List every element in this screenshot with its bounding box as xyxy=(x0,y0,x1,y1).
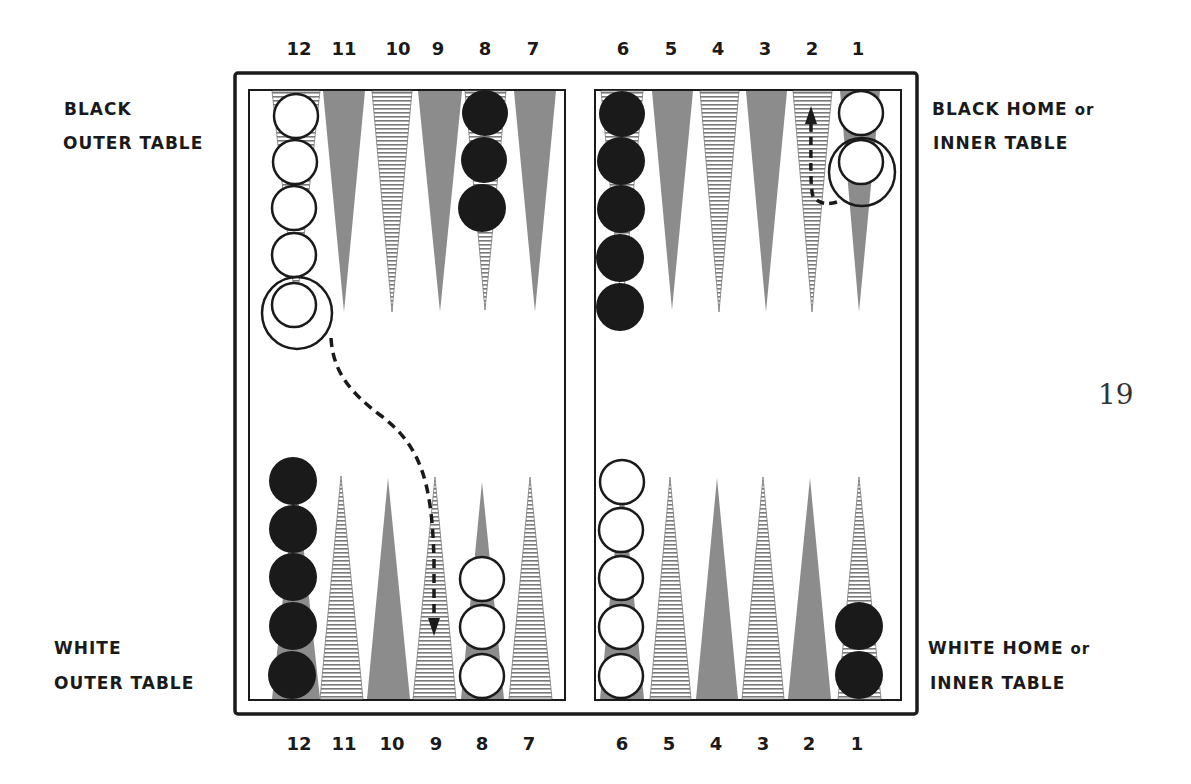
point-number-bottom-7: 7 xyxy=(523,735,536,753)
point-number-top-6: 6 xyxy=(617,40,630,58)
checkers-top-6-black xyxy=(596,91,645,331)
checkers-bottom-8-white xyxy=(460,557,504,698)
label-white-home-or: or xyxy=(1071,640,1091,658)
label-white-home-line1: WHITE HOME xyxy=(928,638,1064,658)
label-white-home-line2: INNER TABLE xyxy=(930,675,1065,692)
point-number-bottom-4: 4 xyxy=(710,735,723,753)
label-white-outer-line1: WHITE xyxy=(54,640,122,657)
point-number-top-7: 7 xyxy=(527,40,540,58)
point-number-top-9: 9 xyxy=(432,40,445,58)
point-number-bottom-2: 2 xyxy=(803,735,816,753)
point-number-bottom-10: 10 xyxy=(379,735,404,753)
point-number-bottom-12: 12 xyxy=(286,735,311,753)
point-number-bottom-5: 5 xyxy=(663,735,676,753)
point-number-bottom-11: 11 xyxy=(331,735,356,753)
point-number-top-4: 4 xyxy=(712,40,725,58)
page-number: 19 xyxy=(1098,378,1134,411)
label-black-home-or: or xyxy=(1075,101,1095,119)
point-number-bottom-9: 9 xyxy=(430,735,443,753)
checkers-top-12-white xyxy=(272,94,318,327)
label-black-home-line2: INNER TABLE xyxy=(933,135,1068,152)
checkers-bottom-6-white xyxy=(599,460,644,698)
point-number-bottom-1: 1 xyxy=(851,735,864,753)
label-white-home: WHITE HOME or xyxy=(928,640,1090,657)
point-number-bottom-6: 6 xyxy=(616,735,629,753)
label-black-outer-line2: OUTER TABLE xyxy=(63,135,203,152)
point-number-top-11: 11 xyxy=(331,40,356,58)
checkers-top-8-black xyxy=(458,90,508,232)
label-white-outer-line2: OUTER TABLE xyxy=(54,675,194,692)
label-black-outer-line1: BLACK xyxy=(64,101,132,118)
point-number-top-12: 12 xyxy=(286,40,311,58)
point-number-top-10: 10 xyxy=(385,40,410,58)
label-black-home-line1: BLACK HOME xyxy=(932,99,1068,119)
point-number-top-8: 8 xyxy=(479,40,492,58)
point-number-bottom-8: 8 xyxy=(476,735,489,753)
point-number-top-1: 1 xyxy=(852,40,865,58)
point-number-top-3: 3 xyxy=(759,40,772,58)
checkers-bottom-12-black xyxy=(268,457,317,699)
point-number-top-2: 2 xyxy=(806,40,819,58)
point-number-top-5: 5 xyxy=(665,40,678,58)
label-black-home: BLACK HOME or xyxy=(932,101,1094,118)
point-number-bottom-3: 3 xyxy=(757,735,770,753)
